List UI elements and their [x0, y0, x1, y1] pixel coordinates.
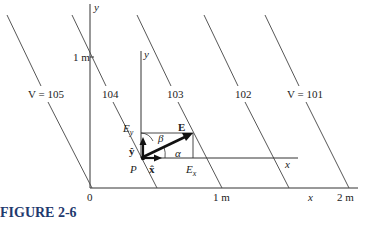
- equipotential-label-104: 104: [102, 88, 119, 100]
- line-v105-bottom: [48, 102, 92, 188]
- x-hat-arrowhead: [154, 155, 162, 162]
- outer-y-label: y: [93, 1, 99, 13]
- point-p-label: P: [129, 163, 137, 175]
- equipotential-lines: [7, 15, 349, 188]
- line-v105-top: [7, 15, 41, 86]
- x-tick-1m-label: 1 m: [213, 191, 230, 203]
- equipotential-label-101: V = 101: [287, 88, 323, 100]
- outer-x-label: x: [307, 191, 313, 203]
- ex-label: Ex: [185, 163, 197, 178]
- point-p: [141, 156, 145, 160]
- equipotential-label-103: 103: [167, 88, 184, 100]
- equipotential-label-105: V = 105: [28, 88, 64, 100]
- line-v101-top: [265, 15, 299, 86]
- beta-label: β: [157, 132, 164, 144]
- line-v104-bottom: [113, 102, 157, 188]
- alpha-label: α: [175, 147, 181, 159]
- line-v101-bottom: [306, 102, 349, 188]
- y-tick-1m-label: 1 m: [73, 51, 90, 63]
- y-hat-label: ŷ: [129, 145, 135, 157]
- figure-caption: FIGURE 2-6: [0, 205, 77, 221]
- line-v103-top: [137, 15, 171, 86]
- line-v103-bottom: [178, 102, 222, 188]
- alpha-arc: [164, 147, 165, 158]
- equipotential-label-102: 102: [235, 88, 252, 100]
- equipotential-diagram: y 1 m y x 0 1 m x 2 m V = 105 104 103 10…: [0, 0, 366, 229]
- inner-y-label: y: [143, 48, 149, 60]
- origin-label: 0: [87, 191, 93, 203]
- ey-label: Ey: [122, 122, 134, 137]
- x-tick-2m-label: 2 m: [337, 191, 354, 203]
- line-v102-bottom: [245, 102, 289, 188]
- e-label: E: [178, 121, 185, 133]
- x-hat-label: x̂: [149, 163, 155, 175]
- inner-x-label: x: [284, 158, 290, 170]
- line-v102-top: [204, 15, 238, 86]
